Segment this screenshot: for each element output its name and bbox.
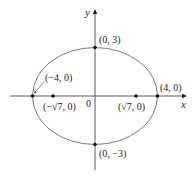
origin-label: 0	[86, 98, 91, 109]
label-left-focus: (−√7, 0)	[43, 101, 76, 113]
label-left-vertex: (−4, 0)	[45, 72, 72, 84]
label-top: (0, 3)	[99, 34, 121, 46]
point-right-vertex	[156, 94, 160, 98]
x-axis-label: x	[180, 98, 186, 110]
label-bottom: (0, −3)	[99, 148, 126, 160]
point-right-focus	[134, 94, 138, 98]
point-left-vertex	[31, 94, 35, 98]
point-bottom	[93, 143, 97, 147]
leader-arrow	[35, 82, 45, 93]
point-top	[93, 46, 97, 50]
label-right-focus: (√7, 0)	[118, 101, 145, 113]
ellipse-diagram: y x 0 (0, 3) (0, −3) (−4, 0) (4, 0) (−√7…	[0, 0, 196, 177]
y-axis-label: y	[84, 6, 90, 18]
label-right-vertex: (4, 0)	[160, 82, 182, 94]
point-left-focus	[51, 94, 55, 98]
